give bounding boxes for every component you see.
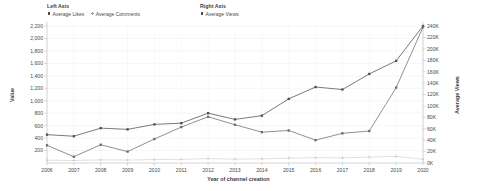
x-axis-tick-label: 2009: [122, 167, 133, 173]
chart-container: Left Axis Average Likes Average Comments…: [0, 0, 477, 191]
x-axis-tick-label: 2015: [283, 167, 294, 173]
data-point-marker: [153, 138, 155, 140]
x-axis-tick-label: 2016: [310, 167, 321, 173]
y-axis-right-tick-label: 200K: [427, 46, 439, 52]
y-axis-left-ticks: 2,2002,0001,8001,6001,4001,2001,00080060…: [30, 23, 47, 154]
y-axis-right-ticks: 240K220K200K180K160K140K120K100K80K60K40…: [423, 23, 439, 166]
y-axis-left-title: Value: [9, 75, 15, 115]
data-point-marker: [126, 128, 128, 130]
data-point-marker: [314, 156, 317, 159]
x-axis-tick-label: 2008: [95, 167, 106, 173]
x-axis-tick-label: 2013: [229, 167, 240, 173]
x-axis-tick-label: 2020: [417, 167, 428, 173]
y-axis-right-tick-label: 100K: [427, 103, 439, 109]
x-axis-title: Year of channel creation: [0, 176, 477, 182]
y-axis-right-tick-label: 160K: [427, 69, 439, 75]
data-point-marker: [314, 86, 316, 88]
y-axis-left-tick-label: 1,200: [30, 85, 43, 91]
data-point-marker: [46, 144, 48, 146]
data-point-marker: [261, 115, 263, 117]
y-axis-right-tick-label: 140K: [427, 80, 439, 86]
data-point-marker: [368, 156, 371, 159]
x-axis-tick-label: 2006: [41, 167, 52, 173]
y-axis-left-tick-label: 2,200: [30, 23, 43, 29]
data-point-marker: [341, 156, 344, 159]
y-axis-left-tick-label: 1,000: [30, 98, 43, 104]
data-point-marker: [72, 159, 75, 162]
data-point-marker: [368, 130, 370, 132]
data-point-marker: [180, 126, 182, 128]
y-axis-left-tick-label: 800: [35, 110, 44, 116]
data-point-marker: [207, 112, 209, 114]
data-point-marker: [126, 150, 128, 152]
x-axis-tick-label: 2018: [364, 167, 375, 173]
data-point-marker: [422, 158, 425, 161]
data-point-marker: [73, 156, 75, 158]
data-point-marker: [341, 132, 343, 134]
data-point-marker: [395, 87, 397, 89]
data-point-marker: [234, 124, 236, 126]
y-axis-right-tick-label: 60K: [427, 126, 437, 132]
data-point-marker: [207, 157, 210, 160]
data-point-marker: [153, 158, 156, 161]
data-point-marker: [395, 60, 397, 62]
y-axis-right-title: Average Views: [454, 62, 460, 128]
data-point-marker: [287, 157, 290, 160]
data-point-marker: [234, 118, 236, 120]
data-point-marker: [234, 158, 237, 161]
y-axis-right-tick-label: 120K: [427, 91, 439, 97]
x-axis-tick-label: 2019: [390, 167, 401, 173]
plot-area: 2,2002,0001,8001,6001,4001,2001,00080060…: [0, 0, 477, 191]
data-point-marker: [260, 157, 263, 160]
x-axis-tick-label: 2010: [149, 167, 160, 173]
data-point-marker: [341, 88, 343, 90]
y-axis-right-tick-label: 0K: [427, 160, 434, 166]
data-point-marker: [368, 73, 370, 75]
data-point-marker: [180, 122, 182, 124]
data-point-marker: [422, 26, 424, 28]
y-axis-left-tick-label: 400: [35, 135, 44, 141]
x-axis-ticks: 2006200720082009201020112012201320142015…: [41, 163, 428, 173]
y-axis-left-tick-label: 1,800: [30, 48, 43, 54]
data-point-marker: [46, 134, 48, 136]
y-axis-left-tick-label: 2,000: [30, 35, 43, 41]
gridlines-vertical: [47, 26, 423, 163]
data-point-marker: [314, 139, 316, 141]
data-point-marker: [100, 144, 102, 146]
data-point-marker: [73, 135, 75, 137]
x-axis-tick-label: 2011: [176, 167, 187, 173]
y-axis-right-tick-label: 80K: [427, 114, 437, 120]
data-point-marker: [126, 159, 129, 162]
x-axis-tick-label: 2012: [202, 167, 213, 173]
y-axis-right-tick-label: 220K: [427, 34, 439, 40]
y-axis-left-tick-label: 1,400: [30, 73, 43, 79]
y-axis-right-tick-label: 40K: [427, 137, 437, 143]
y-axis-left-tick-label: 1,600: [30, 60, 43, 66]
x-axis-tick-label: 2014: [256, 167, 267, 173]
data-point-marker: [288, 129, 290, 131]
data-point-marker: [180, 158, 183, 161]
data-point-marker: [99, 158, 102, 161]
data-point-marker: [395, 155, 398, 158]
y-axis-left-tick-label: 600: [35, 123, 44, 129]
y-axis-left-tick-label: 200: [35, 147, 44, 153]
y-axis-right-tick-label: 180K: [427, 57, 439, 63]
data-point-marker: [261, 131, 263, 133]
x-axis-tick-label: 2017: [337, 167, 348, 173]
y-axis-right-tick-label: 240K: [427, 23, 439, 29]
data-point-marker: [288, 98, 290, 100]
data-point-marker: [153, 123, 155, 125]
data-point-marker: [207, 116, 209, 118]
data-point-marker: [46, 159, 49, 162]
y-axis-right-tick-label: 20K: [427, 148, 437, 154]
x-axis-tick-label: 2007: [68, 167, 79, 173]
data-point-marker: [100, 127, 102, 129]
